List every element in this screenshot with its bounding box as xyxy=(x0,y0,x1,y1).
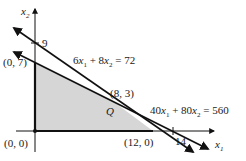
feasible-region-diagram: x2 x1 9 14 (0, 7) (0, 0) (8, 3) (12, 0) … xyxy=(0,0,246,161)
x-axis-label: x1 xyxy=(214,138,223,153)
x-tick-label: 14 xyxy=(175,135,187,147)
constraint-label-2: 40x1 + 80x2 = 560 xyxy=(150,104,229,119)
point-label-0-0: (0, 0) xyxy=(4,137,28,150)
y-axis-label: x2 xyxy=(20,5,30,20)
point-label-8-3: (8, 3) xyxy=(110,87,134,100)
constraint-label-1: 6x1 + 8x2 = 72 xyxy=(73,54,135,69)
point-q-label: Q xyxy=(106,105,114,117)
point-label-0-7: (0, 7) xyxy=(3,56,27,69)
feasible-region xyxy=(35,63,153,131)
y-tick-label: 9 xyxy=(42,37,48,49)
point-label-12-0: (12, 0) xyxy=(124,136,154,149)
vertex-origin xyxy=(33,129,37,133)
